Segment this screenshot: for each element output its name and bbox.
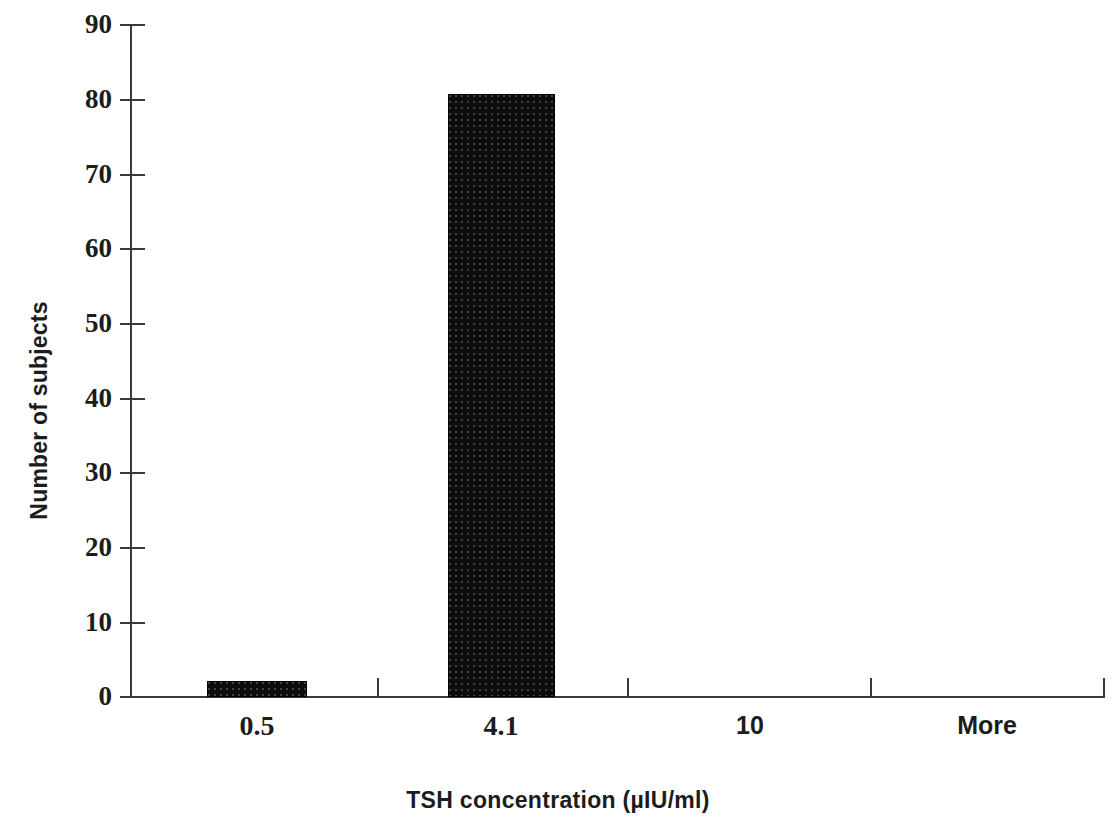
y-axis-label-70: 70 <box>0 161 112 188</box>
x-axis-tick-4 <box>1103 678 1105 698</box>
y-axis-label-10: 10 <box>0 609 112 636</box>
y-axis-label-40: 40 <box>0 385 112 412</box>
y-axis-tick-30 <box>120 472 145 474</box>
x-axis-tick-2 <box>627 678 629 698</box>
bar-chart: 90 80 70 60 50 40 30 20 10 0 0.5 4.1 10 … <box>0 0 1116 821</box>
y-axis-tick-80 <box>120 99 145 101</box>
y-axis-label-20: 20 <box>0 534 112 561</box>
y-axis-tick-60 <box>120 248 145 250</box>
y-axis-tick-20 <box>120 547 145 549</box>
y-axis-label-50: 50 <box>0 310 112 337</box>
bar-4.1 <box>448 94 555 697</box>
y-axis-tick-50 <box>120 323 145 325</box>
y-axis-tick-90 <box>120 24 145 26</box>
y-axis-tick-70 <box>120 174 145 176</box>
y-axis-label-80: 80 <box>0 86 112 113</box>
y-axis-label-30: 30 <box>0 459 112 486</box>
y-axis-tick-10 <box>120 622 145 624</box>
y-axis-tick-40 <box>120 398 145 400</box>
y-axis-label-90: 90 <box>0 11 112 38</box>
y-axis-title: Number of subjects <box>26 281 53 541</box>
x-axis-tick-3 <box>870 678 872 698</box>
x-axis-label-1: 4.1 <box>441 712 561 740</box>
x-axis-label-0: 0.5 <box>197 712 317 740</box>
x-axis-label-2: 10 <box>690 713 810 738</box>
x-axis-tick-1 <box>377 678 379 698</box>
bar-0.5 <box>207 681 307 697</box>
x-axis-title: TSH concentration (µIU/ml) <box>0 787 1116 814</box>
y-axis-line <box>130 25 132 698</box>
x-axis-label-3: More <box>927 713 1047 738</box>
y-axis-label-60: 60 <box>0 235 112 262</box>
y-axis-label-0: 0 <box>0 683 112 710</box>
